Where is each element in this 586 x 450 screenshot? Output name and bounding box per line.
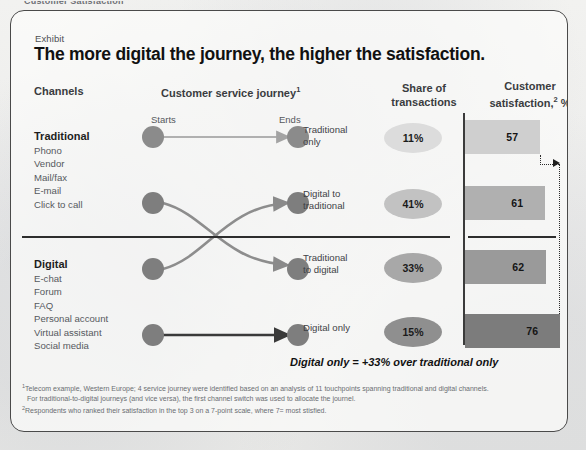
- journey-label-line: Digital to: [303, 188, 345, 200]
- share-bubble-digital-to-traditional: 41%: [384, 189, 442, 219]
- journey-start-node: [142, 126, 164, 148]
- bar-value-label: 61: [511, 197, 545, 209]
- journey-label-digital-only: Digital only: [303, 322, 350, 334]
- journey-label-line: to digital: [303, 264, 347, 276]
- footnote-2-line-1: 2Respondents who ranked their satisfacti…: [22, 404, 542, 416]
- journey-label-traditional-only: Traditional only: [303, 124, 347, 147]
- page-top-heading: Customer Satisfaction: [24, 0, 124, 6]
- journey-start-node: [142, 192, 164, 214]
- footnote-1-line-2: For traditional-to-digital journeys (and…: [22, 394, 542, 404]
- group-divider-line-chart: [468, 236, 556, 238]
- share-bubble-digital-only: 15%: [384, 317, 442, 347]
- bar-digital-to-traditional: 61: [465, 186, 545, 220]
- bar-digital-only: 76: [465, 314, 560, 348]
- journey-label-line: only: [303, 136, 347, 148]
- journey-start-node: [142, 324, 164, 346]
- exhibit-card: Exhibit The more digital the journey, th…: [10, 10, 568, 432]
- footnote-1-text: Telecom example, Western Europe; 4 servi…: [25, 385, 489, 392]
- bar-traditional-to-digital: 62: [465, 250, 546, 284]
- share-bubble-traditional-to-digital: 33%: [384, 253, 442, 283]
- journey-label-line: Digital only: [303, 322, 350, 334]
- callout-delta: Digital only = +33% over traditional onl…: [290, 356, 498, 368]
- bar-value-label: 76: [526, 325, 560, 337]
- delta-connector-segment: [559, 164, 560, 314]
- flow-arrow-cross-down: [163, 203, 287, 265]
- bar-traditional-only: 57: [465, 120, 540, 154]
- journey-label-line: traditional: [303, 200, 345, 212]
- journey-label-digital-to-traditional: Digital to traditional: [303, 188, 345, 211]
- journey-label-line: Traditional: [303, 124, 347, 136]
- journey-label-traditional-to-digital: Traditional to digital: [303, 252, 347, 275]
- bar-value-label: 57: [506, 131, 540, 143]
- footnote-2-text: Respondents who ranked their satisfactio…: [25, 407, 326, 414]
- footnote-1-line-1: 1Telecom example, Western Europe; 4 serv…: [22, 382, 542, 394]
- bar-value-label: 62: [512, 261, 546, 273]
- share-bubble-traditional-only: 11%: [384, 123, 442, 153]
- footnotes: 1Telecom example, Western Europe; 4 serv…: [22, 382, 542, 415]
- journey-flow-diagram: [11, 11, 568, 432]
- group-divider-line: [22, 236, 450, 238]
- journey-start-node: [142, 258, 164, 280]
- journey-label-line: Traditional: [303, 252, 347, 264]
